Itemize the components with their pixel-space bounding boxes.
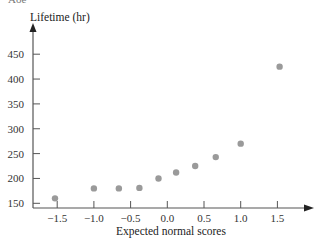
- y-tick-label: 450: [8, 48, 25, 60]
- x-tick-label: 1.0: [234, 212, 248, 224]
- x-tick-label: 0.0: [160, 212, 174, 224]
- y-tick-label: 400: [8, 73, 25, 85]
- data-point: [192, 163, 198, 169]
- data-point: [52, 195, 58, 201]
- x-axis: −1.5−1.0−0.50.00.51.01.5: [33, 201, 314, 224]
- data-point: [238, 140, 244, 146]
- y-axis-label: Lifetime (hr): [30, 11, 90, 24]
- y-tick-label: 250: [8, 148, 25, 160]
- x-tick-label: 0.5: [197, 212, 211, 224]
- data-point: [155, 175, 161, 181]
- data-point: [276, 63, 282, 69]
- data-points: [52, 63, 283, 201]
- data-point: [116, 185, 122, 191]
- data-point: [173, 169, 179, 175]
- x-tick-label: −0.5: [121, 212, 141, 224]
- data-point: [136, 185, 142, 191]
- y-tick-label: 150: [8, 197, 25, 209]
- data-point: [91, 185, 97, 191]
- data-point: [213, 154, 219, 160]
- y-axis: 150200250300350400450: [8, 23, 41, 209]
- y-tick-label: 300: [8, 123, 25, 135]
- scatter-chart: 150200250300350400450 −1.5−1.0−0.50.00.5…: [0, 0, 320, 244]
- y-tick-label: 350: [8, 98, 25, 110]
- x-tick-label: −1.5: [47, 212, 67, 224]
- x-tick-label: −1.0: [84, 212, 104, 224]
- x-axis-label: Expected normal scores: [116, 225, 226, 238]
- x-tick-label: 1.5: [271, 212, 285, 224]
- y-tick-label: 200: [8, 172, 25, 184]
